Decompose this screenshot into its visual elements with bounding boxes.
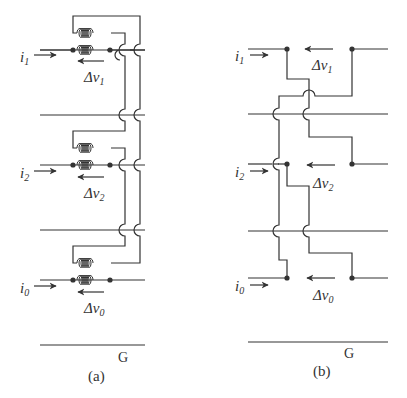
- panel-b-ground-label: G: [344, 346, 354, 361]
- svg-text:i0: i0: [20, 280, 29, 298]
- svg-text:Δv1: Δv1: [311, 57, 332, 75]
- svg-text:Δv1: Δv1: [83, 69, 104, 87]
- panel-b-caption: (b): [313, 363, 331, 380]
- panel-a: [40, 16, 145, 345]
- panel-b-labels: i1 Δv1 i2 Δv2 i0 Δv0 G (b): [235, 48, 354, 380]
- svg-text:i0: i0: [235, 278, 244, 296]
- panel-a-labels: i1 Δv1 i2 Δv2 i0 Δv0 G (a): [20, 49, 128, 385]
- svg-text:Δv2: Δv2: [83, 185, 104, 203]
- panel-b-dots: [284, 46, 354, 280]
- svg-text:i2: i2: [235, 164, 244, 182]
- circuit-figure: i1 Δv1 i2 Δv2 i0 Δv0 G (a): [0, 0, 407, 398]
- svg-text:i1: i1: [20, 49, 29, 67]
- svg-text:Δv0: Δv0: [312, 287, 333, 305]
- panel-a-caption: (a): [88, 368, 105, 385]
- svg-text:Δv0: Δv0: [83, 300, 104, 318]
- panel-a-ground-label: G: [118, 350, 128, 365]
- svg-text:i2: i2: [20, 165, 29, 183]
- svg-text:Δv2: Δv2: [312, 175, 333, 193]
- svg-text:i1: i1: [235, 48, 244, 66]
